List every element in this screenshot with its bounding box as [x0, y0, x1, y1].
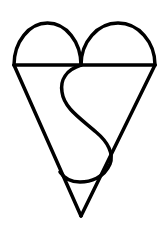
right-arc [81, 23, 155, 65]
kitemark-icon [0, 0, 168, 239]
s-curve [60, 65, 111, 182]
triangle-right-side [81, 65, 155, 216]
triangle-left-side [14, 65, 81, 216]
left-arc [14, 23, 81, 65]
kitemark-logo [0, 0, 168, 239]
